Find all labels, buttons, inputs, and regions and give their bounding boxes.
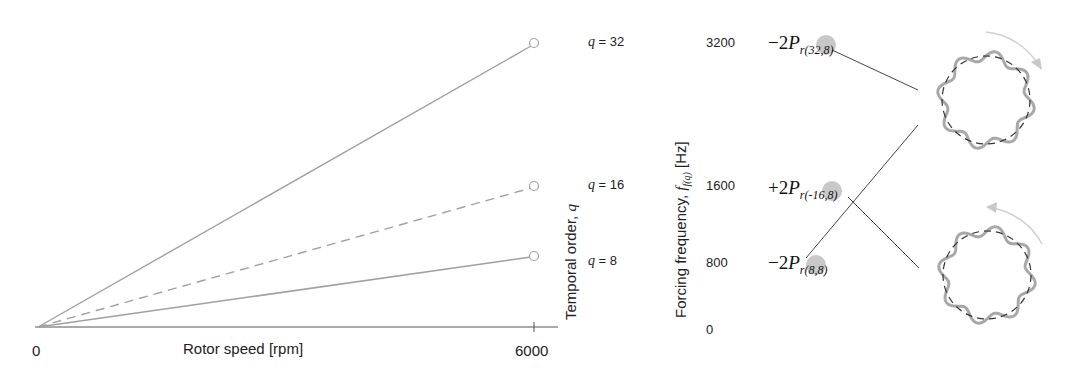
connector-32-to-ring1 xyxy=(832,50,918,90)
mode-subscript: r(32,8) xyxy=(800,43,834,57)
mode-symbol: P xyxy=(788,252,800,273)
mode-sign: −2 xyxy=(768,252,788,273)
mode-subscript: r(-16,8) xyxy=(800,188,838,202)
rotation-arrow-counter-clockwise xyxy=(992,208,1042,244)
order-label-q16: q = 16 xyxy=(588,177,624,193)
series-line-q8 xyxy=(38,257,531,327)
order-label-value: = 32 xyxy=(595,34,624,49)
freq-title-sub: f(q) xyxy=(681,172,692,186)
diagram-canvas xyxy=(0,0,1068,377)
order-label-var: q xyxy=(588,253,595,268)
rotation-arrow-clockwise xyxy=(986,32,1038,64)
freq-tick-0: 0 xyxy=(706,322,713,337)
mode-label-8-8: −2Pr(8,8) xyxy=(768,252,828,278)
order-label-q32: q = 32 xyxy=(588,34,624,50)
order-label-var: q xyxy=(588,177,595,192)
mode-sign: −2 xyxy=(768,32,788,53)
freq-tick-800: 800 xyxy=(706,255,728,270)
order-label-q8: q = 8 xyxy=(588,253,617,269)
arrowhead-clockwise xyxy=(1031,58,1042,70)
endpoint-marker-q16 xyxy=(530,182,539,191)
freq-title-var: f xyxy=(673,187,689,191)
mode-symbol: P xyxy=(788,32,800,53)
connector-neg16-to-ring2 xyxy=(848,197,919,268)
mode-label-neg16-8: +2Pr(-16,8) xyxy=(768,177,838,203)
mode-subscript: r(8,8) xyxy=(800,263,828,277)
freq-title-text: Forcing frequency, xyxy=(672,191,689,318)
mode-sign: +2 xyxy=(768,177,788,198)
series-line-q32 xyxy=(38,46,531,327)
temporal-order-axis-title: Temporal order, q xyxy=(562,204,580,320)
series-line-q16 xyxy=(38,188,531,327)
x-tick-label-6000: 6000 xyxy=(515,342,548,359)
ring-counter-clockwise xyxy=(939,227,1035,323)
temporal-order-title-var: q xyxy=(563,204,579,212)
ring-clockwise xyxy=(938,52,1034,148)
mode-label-32-8: −2Pr(32,8) xyxy=(768,32,834,58)
x-tick-label-0: 0 xyxy=(32,342,40,359)
arrowhead-counter-clockwise xyxy=(986,202,997,213)
x-axis-title: Rotor speed [rpm] xyxy=(183,340,303,357)
endpoint-marker-q8 xyxy=(530,252,539,261)
order-label-value: = 16 xyxy=(595,177,624,192)
temporal-order-title-text: Temporal order, xyxy=(562,212,579,320)
freq-tick-3200: 3200 xyxy=(706,35,735,50)
order-label-value: = 8 xyxy=(595,253,617,268)
freq-tick-1600: 1600 xyxy=(706,178,735,193)
forcing-frequency-axis-title: Forcing frequency, ff(q) [Hz] xyxy=(672,141,692,318)
freq-title-unit: [Hz] xyxy=(672,141,689,172)
endpoint-marker-q32 xyxy=(530,39,539,48)
mode-symbol: P xyxy=(788,177,800,198)
order-label-var: q xyxy=(588,34,595,49)
